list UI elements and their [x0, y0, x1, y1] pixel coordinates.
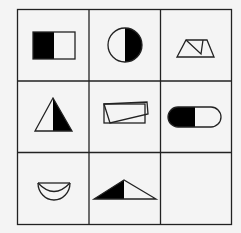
cell-r2c3-half-filled-capsule-icon	[168, 107, 221, 127]
puzzle-grid	[0, 0, 241, 233]
cell-r1c1-half-filled-rectangle-icon	[33, 32, 75, 59]
cell-r3c2-partially-filled-triangle-icon	[94, 180, 156, 199]
cell-r1c3-trapezoid-triangle-icon	[177, 40, 214, 57]
cell-r2c1-half-filled-triangle-icon	[35, 98, 72, 131]
cell-r1c2-half-filled-circle-icon	[108, 28, 142, 62]
cell-r2c2-overlapping-parallelograms-icon	[104, 102, 148, 123]
cell-r3c1-crescent-bowl-icon	[38, 183, 70, 200]
